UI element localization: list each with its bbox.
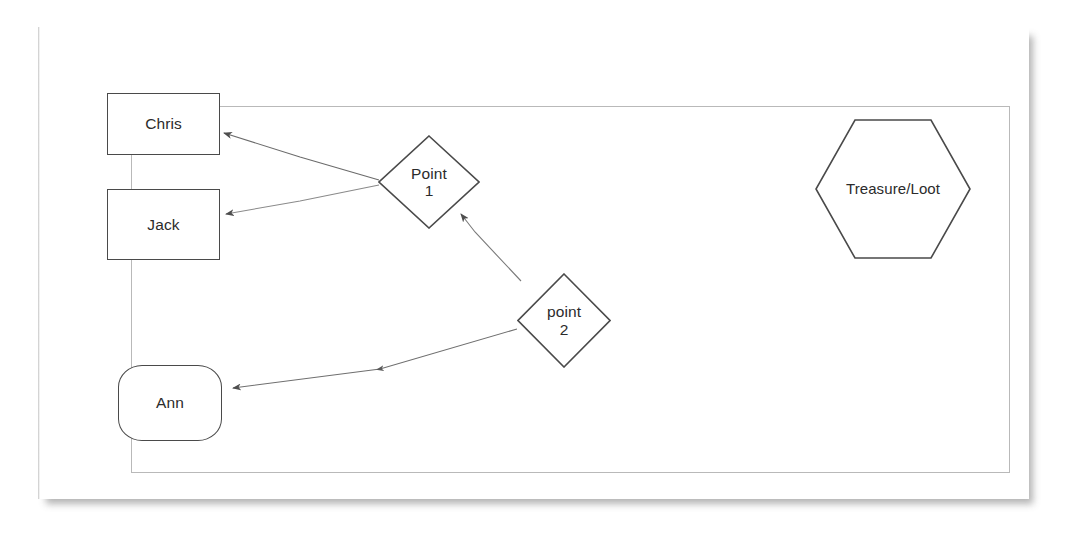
node-treasure-loot-label: Treasure/Loot bbox=[846, 181, 940, 198]
node-chris-label: Chris bbox=[145, 115, 182, 132]
node-jack-label: Jack bbox=[147, 216, 179, 233]
node-treasure-loot[interactable]: Treasure/Loot bbox=[815, 119, 971, 259]
node-point-1-label-line2: 1 bbox=[411, 182, 447, 199]
node-point-2[interactable]: point 2 bbox=[517, 273, 611, 368]
node-chris[interactable]: Chris bbox=[107, 93, 220, 155]
node-ann[interactable]: Ann bbox=[118, 365, 222, 441]
node-ann-label: Ann bbox=[156, 394, 184, 411]
node-point-1-label-line1: Point bbox=[411, 165, 447, 182]
node-jack[interactable]: Jack bbox=[107, 189, 220, 260]
node-point-1[interactable]: Point 1 bbox=[378, 135, 480, 229]
node-point-2-label-line1: point bbox=[547, 303, 581, 320]
node-point-2-label-line2: 2 bbox=[547, 321, 581, 338]
